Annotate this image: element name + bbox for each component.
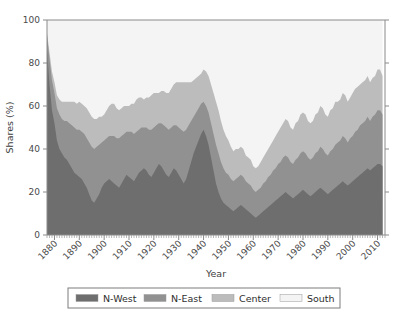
- x-tick-label: 1960: [235, 238, 258, 261]
- legend-label-south: South: [307, 293, 335, 304]
- x-axis-label: Year: [205, 268, 226, 279]
- y-tick-label: 100: [23, 15, 40, 25]
- legend-label-n-west: N-West: [103, 293, 137, 304]
- legend-swatch-south: [280, 295, 302, 302]
- x-tick-label: 2010: [359, 238, 382, 261]
- x-tick-label: 1950: [210, 238, 233, 261]
- x-tick-label: 1930: [160, 238, 183, 261]
- x-tick-label: 1990: [309, 238, 332, 261]
- plot-areas: [47, 20, 383, 235]
- x-tick-label: 1890: [61, 238, 84, 261]
- x-tick-label: 1910: [111, 238, 134, 261]
- legend-swatch-center: [212, 295, 234, 302]
- x-tick-label: 1980: [285, 238, 308, 261]
- x-tick-label: 1900: [86, 238, 109, 261]
- stacked-area-chart: 020406080100 188018901900191019201930194…: [0, 0, 398, 321]
- y-axis-label: Shares (%): [4, 102, 15, 154]
- y-tick-label: 40: [29, 144, 41, 154]
- legend-label-center: Center: [239, 293, 271, 304]
- y-tick-label: 0: [34, 230, 40, 240]
- x-tick-label: 1920: [136, 238, 159, 261]
- y-tick-label: 20: [29, 187, 41, 197]
- legend-label-n-east: N-East: [171, 293, 202, 304]
- chart-legend: N-WestN-EastCenterSouth: [68, 288, 340, 308]
- x-tick-label: 1940: [185, 238, 208, 261]
- x-tick-label: 1970: [260, 238, 283, 261]
- legend-swatch-n-west: [76, 295, 98, 302]
- x-axis-ticks: 1880189019001910192019301940195019601970…: [36, 235, 385, 262]
- legend-swatch-n-east: [144, 295, 166, 302]
- y-tick-label: 80: [29, 58, 41, 68]
- chart-figure: 020406080100 188018901900191019201930194…: [0, 0, 398, 321]
- x-tick-label: 1880: [36, 238, 59, 261]
- y-tick-label: 60: [29, 101, 41, 111]
- x-tick-label: 2000: [334, 238, 357, 261]
